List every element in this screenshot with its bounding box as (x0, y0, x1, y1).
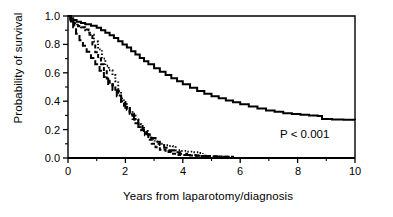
x-tick-label-2: 2 (110, 166, 140, 177)
y-tick-label-4: 0.4 (34, 96, 60, 107)
x-tick-label-1: 0 (53, 166, 83, 177)
survival-chart-figure: Probability of survival 1.0 0.8 0.6 0.4 … (0, 0, 393, 217)
y-tick-label-5: 0.2 (34, 125, 60, 136)
curve-solid-curve (68, 16, 355, 120)
x-tick-label-4: 6 (225, 166, 255, 177)
y-tick-label-2: 0.8 (34, 39, 60, 50)
y-tick-label-3: 0.6 (34, 68, 60, 79)
x-tick-label-3: 4 (168, 166, 198, 177)
axis-ticks (63, 16, 355, 163)
y-tick-label-6: 0.0 (34, 153, 60, 164)
y-axis-title: Probability of survival (12, 0, 24, 138)
x-tick-label-6: 10 (340, 166, 370, 177)
y-tick-label-1: 1.0 (34, 11, 60, 22)
y-axis-tick-labels: 1.0 0.8 0.6 0.4 0.2 0.0 (32, 0, 60, 217)
p-value-annotation: P < 0.001 (280, 128, 329, 140)
x-tick-label-5: 8 (283, 166, 313, 177)
x-axis-title: Years from laparotomy/diagnosis (60, 190, 356, 202)
